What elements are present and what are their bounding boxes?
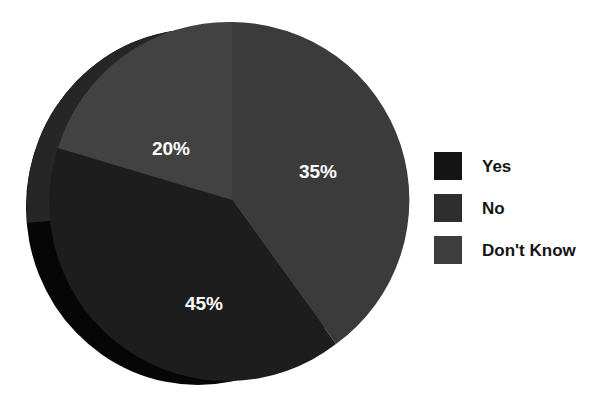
pie-chart-figure: 35% 45% 20% Yes No Don't Know: [0, 0, 616, 393]
legend-label-no: No: [482, 200, 505, 217]
pie-label-yes: 35%: [299, 161, 337, 182]
legend-swatch-dont-know: [434, 236, 462, 264]
legend-item-no: No: [434, 194, 614, 222]
legend-item-dont-know: Don't Know: [434, 236, 614, 264]
pie-label-dont-know: 20%: [152, 138, 190, 159]
pie-top-face: [49, 22, 409, 381]
chart-legend: Yes No Don't Know: [434, 152, 614, 264]
legend-label-dont-know: Don't Know: [482, 242, 576, 259]
legend-item-yes: Yes: [434, 152, 614, 180]
legend-swatch-yes: [434, 152, 462, 180]
pie-chart-plot-area: 35% 45% 20%: [0, 0, 430, 393]
pie-label-no: 45%: [185, 293, 223, 314]
legend-label-yes: Yes: [482, 158, 511, 175]
legend-swatch-no: [434, 194, 462, 222]
pie-chart-svg: 35% 45% 20%: [0, 0, 430, 393]
